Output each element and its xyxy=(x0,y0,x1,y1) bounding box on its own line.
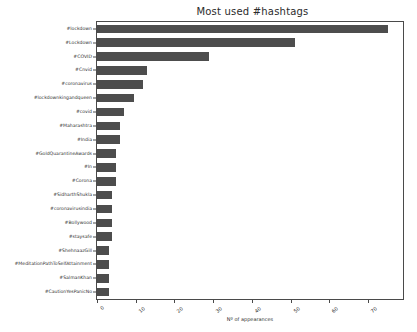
bars-layer xyxy=(97,22,403,299)
bar xyxy=(97,205,112,214)
bar xyxy=(97,163,116,172)
y-tick-label: #lockdown xyxy=(66,27,92,32)
y-tick-label: #CautionYesPanicNo xyxy=(45,290,92,295)
y-tick-label: #Bollywood xyxy=(65,221,92,226)
y-tick-label: #In xyxy=(84,165,92,170)
y-tick-label: #SalmanKhan xyxy=(59,276,92,281)
bar xyxy=(97,191,112,200)
chart-figure: Most used #hashtags #lockdown#Lockdown#C… xyxy=(0,0,417,332)
y-tick-label: #staysafe xyxy=(69,234,92,239)
y-tick-label: #GoldQuarantineAwards xyxy=(35,151,92,156)
x-tick-mark xyxy=(291,300,292,303)
bar xyxy=(97,232,112,241)
bar xyxy=(97,108,124,117)
x-tick-mark xyxy=(136,300,137,303)
y-tick-label: #Maharashtra xyxy=(59,124,92,129)
y-tick-label: #MeditationPathToSelfAttainment xyxy=(15,262,93,267)
plot-area xyxy=(96,21,404,300)
y-tick-label: #SidharthShukla xyxy=(53,193,92,198)
bar xyxy=(97,135,120,144)
bar xyxy=(97,149,116,158)
y-tick-label: #coronavirusindia xyxy=(50,207,92,212)
bar xyxy=(97,25,388,34)
x-tick-label: 20 xyxy=(177,306,185,314)
x-tick-label: 0 xyxy=(100,305,106,311)
x-tick-mark xyxy=(213,300,214,303)
x-tick-mark xyxy=(329,300,330,303)
y-axis-tick-labels: #lockdown#Lockdown#COVID#Cnvid#coronavir… xyxy=(0,21,96,300)
y-tick-label: #India xyxy=(77,137,92,142)
x-tick-mark xyxy=(97,300,98,303)
x-tick-label: 70 xyxy=(370,306,378,314)
bar xyxy=(97,52,209,61)
x-tick-mark xyxy=(174,300,175,303)
chart-title: Most used #hashtags xyxy=(100,6,405,17)
y-tick-label: #coronavirus xyxy=(61,82,92,87)
bar xyxy=(97,219,112,228)
bar xyxy=(97,288,109,297)
x-tick-label: 40 xyxy=(254,306,262,314)
bar xyxy=(97,246,109,255)
y-tick-label: #covid xyxy=(76,110,92,115)
bar xyxy=(97,274,109,283)
x-tick-label: 30 xyxy=(215,306,223,314)
bar xyxy=(97,80,143,89)
x-tick-label: 50 xyxy=(293,306,301,314)
bar xyxy=(97,38,295,47)
y-tick-label: #Corona xyxy=(72,179,92,184)
bar xyxy=(97,177,116,186)
x-axis-label: Nº of appearances xyxy=(96,316,404,322)
y-tick-label: #lockdownkingandqueen xyxy=(34,96,92,101)
y-tick-label: #Lockdown xyxy=(65,40,92,45)
bar xyxy=(97,122,120,131)
x-tick-mark xyxy=(368,300,369,303)
bar xyxy=(97,94,134,103)
y-tick-label: #COVID xyxy=(73,54,92,59)
x-tick-label: 60 xyxy=(331,306,339,314)
y-tick-label: #Cnvid xyxy=(75,68,92,73)
x-tick-mark xyxy=(252,300,253,303)
bar xyxy=(97,66,147,75)
bar xyxy=(97,260,109,269)
x-tick-label: 10 xyxy=(138,306,146,314)
y-tick-label: #ShehnaazGill xyxy=(58,248,92,253)
